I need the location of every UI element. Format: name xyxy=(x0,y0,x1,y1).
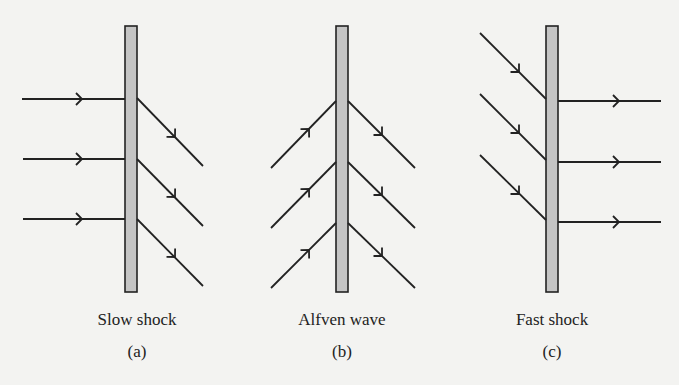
panel-alfven-wave xyxy=(271,26,415,292)
panel-b-tag: (b) xyxy=(262,342,422,362)
shock-front-bar xyxy=(125,26,137,292)
shock-front-bar xyxy=(546,26,558,292)
panel-a-tag: (a) xyxy=(57,342,217,362)
panel-b-title: Alfven wave xyxy=(262,310,422,330)
panel-fast-shock xyxy=(480,26,661,292)
panel-c-tag: (c) xyxy=(472,342,632,362)
panel-slow-shock xyxy=(22,26,203,292)
panel-a-title: Slow shock xyxy=(57,310,217,330)
arrow-icon xyxy=(511,64,619,228)
panel-c-title: Fast shock xyxy=(472,310,632,330)
shock-front-bar xyxy=(336,26,348,292)
